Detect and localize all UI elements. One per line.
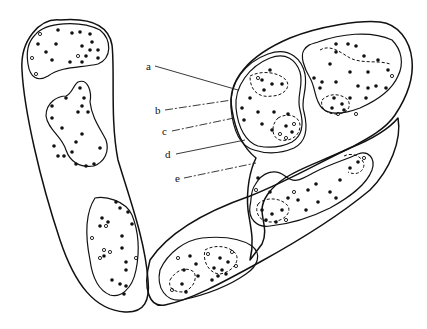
leader-c bbox=[172, 118, 234, 131]
labels: a b c d e bbox=[146, 60, 180, 184]
right-lower-segment bbox=[147, 118, 399, 305]
label-c: c bbox=[162, 125, 167, 137]
leader-d bbox=[176, 140, 245, 154]
leader-e bbox=[184, 163, 256, 178]
label-b: b bbox=[155, 104, 161, 116]
leader-b bbox=[165, 100, 232, 110]
histology-diagram: a b c d e bbox=[0, 0, 427, 329]
label-e: e bbox=[175, 172, 180, 184]
leader-a bbox=[155, 66, 238, 90]
label-d: d bbox=[165, 148, 171, 160]
label-a: a bbox=[146, 60, 151, 72]
